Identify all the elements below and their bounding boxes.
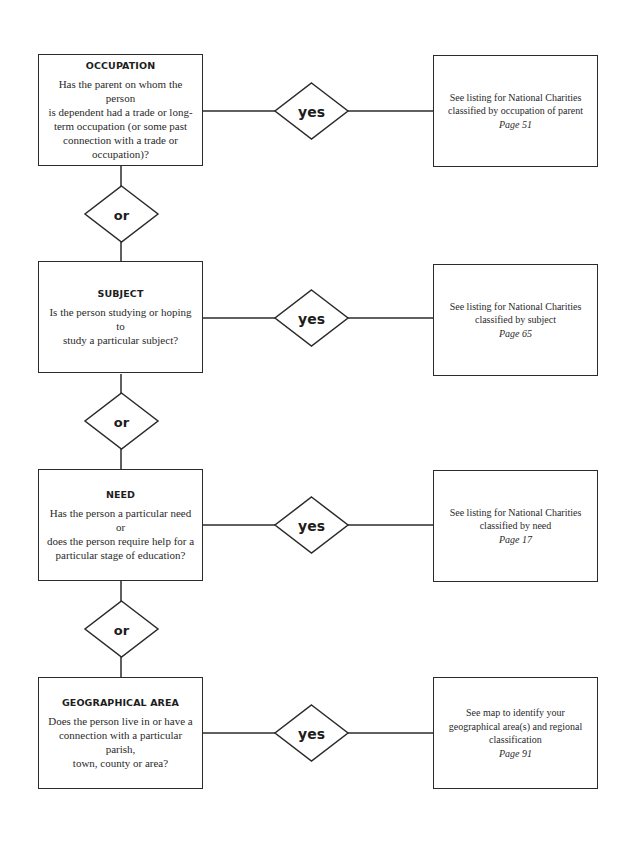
result-box-geographical-area: See map to identify your geographical ar… — [433, 677, 598, 789]
question-line: study a particular subject? — [45, 333, 196, 347]
result-line: See listing for National Charities — [448, 91, 583, 105]
or-label: or — [114, 623, 129, 638]
page-reference: Page 65 — [499, 327, 532, 341]
question-text: Has the parent on whom the person is dep… — [45, 77, 196, 161]
result-text: See listing for National Charities class… — [450, 300, 582, 327]
result-box-subject: See listing for National Charities class… — [433, 264, 598, 376]
question-text: Does the person live in or have a connec… — [45, 714, 196, 770]
flowchart: OCCUPATION Has the parent on whom the pe… — [0, 0, 633, 858]
yes-label: yes — [298, 311, 325, 327]
result-line: See listing for National Charities — [450, 300, 582, 314]
question-line: Is the person studying or hoping to — [45, 305, 196, 333]
result-box-occupation: See listing for National Charities class… — [433, 55, 598, 167]
result-line: classified by subject — [450, 313, 582, 327]
result-line: See map to identify your — [449, 706, 583, 720]
question-line: Does the person live in or have a — [45, 714, 196, 728]
page-reference: Page 51 — [499, 118, 532, 132]
question-box-need: NEED Has the person a particular need or… — [38, 469, 203, 581]
question-text: Has the person a particular need or does… — [45, 506, 196, 562]
page-reference: Page 17 — [499, 533, 532, 547]
result-text: See listing for National Charities class… — [450, 506, 582, 533]
result-text: See listing for National Charities class… — [448, 91, 583, 118]
result-line: See listing for National Charities — [450, 506, 582, 520]
question-box-geographical-area: GEOGRAPHICAL AREA Does the person live i… — [38, 677, 203, 789]
yes-label: yes — [298, 518, 325, 534]
or-label: or — [114, 208, 129, 223]
result-line: classified by need — [450, 519, 582, 533]
result-line: classified by occupation of parent — [448, 104, 583, 118]
question-line: Has the parent on whom the person — [45, 77, 196, 105]
question-title: OCCUPATION — [86, 60, 155, 71]
question-box-subject: SUBJECT Is the person studying or hoping… — [38, 261, 203, 373]
question-line: is dependent had a trade or long- — [45, 105, 196, 119]
question-line: Has the person a particular need or — [45, 506, 196, 534]
question-box-occupation: OCCUPATION Has the parent on whom the pe… — [38, 54, 203, 166]
question-text: Is the person studying or hoping to stud… — [45, 305, 196, 347]
question-line: connection with a particular parish, — [45, 728, 196, 756]
question-line: particular stage of education? — [45, 548, 196, 562]
result-line: geographical area(s) and regional — [449, 720, 583, 734]
question-line: term occupation (or some past — [45, 119, 196, 133]
result-box-need: See listing for National Charities class… — [433, 470, 598, 582]
result-line: classification — [449, 733, 583, 747]
question-line: town, county or area? — [45, 756, 196, 770]
or-label: or — [114, 415, 129, 430]
question-title: NEED — [106, 489, 135, 500]
question-title: GEOGRAPHICAL AREA — [62, 697, 179, 708]
question-line: occupation)? — [45, 147, 196, 161]
yes-label: yes — [298, 726, 325, 742]
yes-label: yes — [298, 104, 325, 120]
question-title: SUBJECT — [98, 288, 144, 299]
page-reference: Page 91 — [499, 747, 532, 761]
result-text: See map to identify your geographical ar… — [449, 706, 583, 747]
question-line: does the person require help for a — [45, 534, 196, 548]
question-line: connection with a trade or — [45, 133, 196, 147]
